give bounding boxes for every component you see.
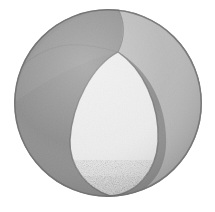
sphere-illustration (0, 0, 215, 212)
figure-root: Sphere divided into three lune segments (0, 0, 215, 212)
